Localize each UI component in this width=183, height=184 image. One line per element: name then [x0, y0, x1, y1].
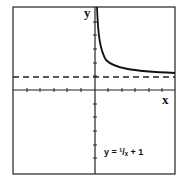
equation-label: y = ¹/ₓ + 1: [104, 147, 143, 157]
graph-plot: [0, 0, 183, 184]
x-axis-label: x: [162, 92, 169, 108]
curve-line: [97, 7, 175, 73]
y-axis-label: y: [84, 5, 91, 21]
